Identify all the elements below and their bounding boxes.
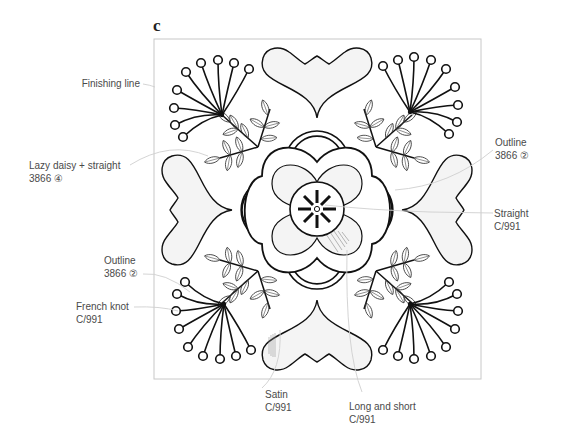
leader-finishing-line xyxy=(143,84,155,87)
label-french-knot: French knot C/991 xyxy=(76,300,129,326)
embroidery-diagram: c xyxy=(0,0,572,446)
center-star xyxy=(290,182,344,236)
label-outline-left: Outline 3866 ② xyxy=(104,254,138,280)
label-satin: Satin C/991 xyxy=(265,388,292,414)
label-finishing-line: Finishing line xyxy=(60,77,140,90)
label-straight: Straight C/991 xyxy=(494,207,528,233)
label-outline-right: Outline 3866 ② xyxy=(495,136,529,162)
label-lazy-daisy: Lazy daisy + straight 3866 ④ xyxy=(29,159,120,185)
embroidery-pattern xyxy=(0,0,572,446)
label-long-and-short: Long and short C/991 xyxy=(349,400,416,426)
